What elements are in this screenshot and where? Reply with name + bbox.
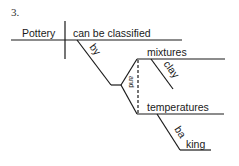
conjunction-word: and [128,76,135,88]
problem-number: 3. [11,6,20,18]
preposition-word: by [87,41,104,58]
verb-phrase: can be classified [73,27,151,39]
sentence-diagram: 3. Pottery can be classified by and mixt… [0,0,239,166]
subject-word: Pottery [22,27,56,39]
object-word-mixtures: mixtures [147,46,187,58]
fork-lower-branch [121,85,137,114]
modifier-word-baking-part2: king [186,138,205,150]
object-word-temperatures: temperatures [147,101,209,113]
